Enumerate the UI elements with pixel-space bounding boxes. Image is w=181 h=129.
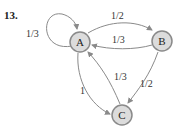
edge-b-a	[92, 45, 152, 49]
edge-label-c-a: 1/3	[114, 71, 127, 82]
edge-label-a-c: 1	[80, 85, 85, 96]
edge-label-a-a: 1/3	[26, 28, 39, 39]
node-b-label: B	[158, 35, 165, 47]
node-b: B	[152, 31, 172, 51]
node-c: C	[112, 105, 132, 125]
edge-label-b-c: 1/2	[140, 78, 153, 89]
edge-label-a-b: 1/2	[111, 10, 124, 21]
edge-label-b-a: 1/3	[112, 34, 125, 45]
problem-number: 13.	[4, 9, 18, 21]
node-a-label: A	[76, 36, 84, 48]
edge-a-c	[78, 53, 110, 114]
node-a: A	[70, 32, 90, 52]
markov-diagram: 13. 1/3 1/2 1/3 1/3 1 1/2 A B C	[0, 0, 181, 129]
edge-a-b	[88, 23, 152, 33]
node-c-label: C	[118, 109, 125, 121]
